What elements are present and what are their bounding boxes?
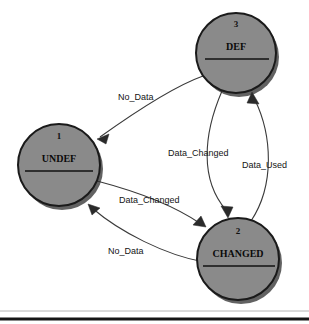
state-node-changed-number: 2 (236, 226, 241, 236)
state-node-def-label: DEF (226, 41, 246, 52)
state-node-undef-label: UNDEF (42, 153, 76, 164)
state-node-changed[interactable]: 2 CHANGED (197, 218, 282, 304)
edge-label-def-to-changed: Data_Changed (168, 148, 229, 158)
edge-def-to-undef-path (100, 76, 203, 137)
state-node-undef[interactable]: 1 UNDEF (18, 124, 103, 210)
edge-changed-to-def (247, 92, 268, 221)
edge-label-changed-to-def: Data_Used (242, 160, 287, 170)
edge-label-def-to-undef: No_Data (118, 92, 154, 102)
state-node-changed-label: CHANGED (212, 248, 263, 259)
state-diagram-svg: 3 DEF 1 UNDEF 2 CHANGED No_Data Data_Cha… (0, 0, 309, 324)
state-node-undef-number: 1 (57, 131, 62, 141)
edge-label-undef-to-changed: Data_Changed (119, 195, 180, 205)
edge-def-to-changed-arrowhead (221, 206, 233, 218)
edge-def-to-undef (97, 76, 203, 144)
edge-label-changed-to-undef: No_Data (108, 246, 144, 256)
state-diagram-canvas: 3 DEF 1 UNDEF 2 CHANGED No_Data Data_Cha… (0, 0, 309, 324)
state-node-def[interactable]: 3 DEF (196, 13, 279, 97)
edge-undef-to-changed-arrowhead (193, 216, 206, 227)
edge-changed-to-undef (88, 204, 204, 262)
state-node-def-number: 3 (234, 19, 239, 29)
